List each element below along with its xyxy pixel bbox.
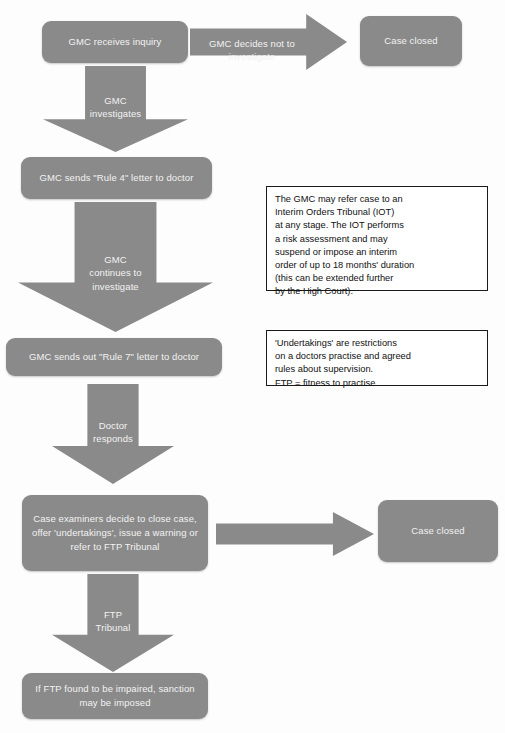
arrow-gmc-decides-not-to-investigate[interactable] [190, 14, 347, 70]
arrow-gmc-investigates[interactable] [43, 66, 188, 152]
node-sanction-imposed[interactable]: If FTP found to be impaired, sanction ma… [22, 673, 208, 719]
node-case-closed-top[interactable]: Case closed [360, 16, 462, 66]
node-rule4-letter[interactable]: GMC sends "Rule 4" letter to doctor [21, 157, 212, 199]
arrow-ftp-tribunal[interactable] [52, 574, 174, 672]
node-case-closed-bottom[interactable]: Case closed [378, 500, 498, 562]
node-gmc-receives-inquiry[interactable]: GMC receives inquiry [42, 21, 188, 63]
arrow-to-case-closed-bottom[interactable] [216, 512, 374, 556]
node-rule7-letter[interactable]: GMC sends out "Rule 7" letter to doctor [6, 338, 222, 376]
note-undertakings: 'Undertakings' are restrictions on a doc… [266, 330, 488, 386]
flowchart-canvas: GMC receives inquiry GMC decides not to … [0, 0, 505, 733]
arrow-gmc-continues-to-investigate[interactable] [18, 202, 213, 332]
note-interim-orders-tribunal: The GMC may refer case to an Interim Ord… [266, 186, 488, 291]
node-case-examiners[interactable]: Case examiners decide to close case, off… [22, 495, 208, 571]
arrow-doctor-responds[interactable] [52, 384, 174, 484]
